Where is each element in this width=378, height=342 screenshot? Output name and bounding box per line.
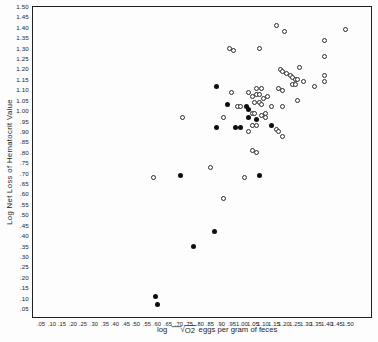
y-tick-label: .95 <box>12 118 29 125</box>
data-point-open <box>274 23 279 28</box>
scatter-figure: Log Net Loss of Hematocrit Value log √ O… <box>0 0 378 342</box>
y-tick-label: .15 <box>12 285 29 292</box>
y-tick-label: .90 <box>12 129 29 136</box>
data-point-open <box>295 98 300 103</box>
data-point-open <box>259 86 264 91</box>
plot-area <box>32 6 372 318</box>
data-point-filled <box>238 125 243 130</box>
y-tick-label: .10 <box>12 295 29 302</box>
y-tick-label: 1.40 <box>12 24 29 31</box>
y-tick-label: .45 <box>12 222 29 229</box>
data-point-filled <box>246 107 251 112</box>
data-point-open <box>257 46 262 51</box>
y-tick-label: 1.10 <box>12 87 29 94</box>
y-tick-label: 1.35 <box>12 35 29 42</box>
data-point-filled <box>191 244 196 249</box>
data-point-open <box>221 115 226 120</box>
data-point-open <box>312 84 317 89</box>
data-point-open <box>293 82 298 87</box>
data-point-open <box>208 165 213 170</box>
data-point-filled <box>153 294 158 299</box>
data-point-open <box>151 175 156 180</box>
y-tick-label: .85 <box>12 139 29 146</box>
data-point-open <box>263 115 268 120</box>
y-tick-label: 1.05 <box>12 97 29 104</box>
y-tick-label: 1.45 <box>12 14 29 21</box>
y-tick-label: .20 <box>12 274 29 281</box>
x-tick-label: 1.50 <box>341 321 355 327</box>
y-tick-label: 1.50 <box>12 4 29 11</box>
data-point-open <box>280 134 285 139</box>
y-tick-label: 1.00 <box>12 108 29 115</box>
y-tick-label: .25 <box>12 264 29 271</box>
y-tick-label: .35 <box>12 243 29 250</box>
data-point-filled <box>246 115 251 120</box>
y-tick-label: .80 <box>12 149 29 156</box>
y-tick-label: .75 <box>12 160 29 167</box>
data-point-filled <box>257 173 262 178</box>
y-tick-label: .60 <box>12 191 29 198</box>
y-tick-label: .40 <box>12 233 29 240</box>
data-point-open <box>297 65 302 70</box>
data-point-open <box>229 90 234 95</box>
y-tick-label: .55 <box>12 201 29 208</box>
y-tick-label: .65 <box>12 181 29 188</box>
y-tick-label: 1.30 <box>12 45 29 52</box>
data-point-open <box>280 88 285 93</box>
y-tick-label: 1.15 <box>12 76 29 83</box>
y-tick-label: 1.20 <box>12 66 29 73</box>
data-point-open <box>221 196 226 201</box>
y-tick-label: .50 <box>12 212 29 219</box>
data-point-filled <box>214 84 219 89</box>
y-tick-label: .30 <box>12 254 29 261</box>
y-tick-label: .05 <box>12 306 29 313</box>
y-tick-label: .70 <box>12 170 29 177</box>
y-tick-label: 1.25 <box>12 56 29 63</box>
